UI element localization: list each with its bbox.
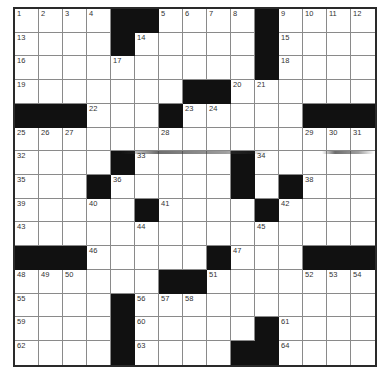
answer-cell[interactable] [327, 341, 351, 365]
answer-cell[interactable] [159, 175, 183, 199]
answer-cell[interactable]: 60 [135, 317, 159, 341]
answer-cell[interactable] [279, 222, 303, 246]
answer-cell[interactable] [159, 246, 183, 270]
answer-cell[interactable] [279, 128, 303, 152]
answer-cell[interactable] [303, 56, 327, 80]
answer-cell[interactable] [87, 33, 111, 57]
answer-cell[interactable] [207, 294, 231, 318]
answer-cell[interactable] [135, 175, 159, 199]
answer-cell[interactable] [159, 33, 183, 57]
answer-cell[interactable] [39, 341, 63, 365]
answer-cell[interactable] [207, 317, 231, 341]
answer-cell[interactable]: 16 [15, 56, 39, 80]
answer-cell[interactable] [111, 270, 135, 294]
answer-cell[interactable] [327, 151, 351, 175]
answer-cell[interactable]: 20 [231, 80, 255, 104]
answer-cell[interactable] [39, 33, 63, 57]
answer-cell[interactable]: 12 [351, 9, 375, 33]
answer-cell[interactable]: 13 [15, 33, 39, 57]
answer-cell[interactable]: 27 [63, 128, 87, 152]
answer-cell[interactable]: 25 [15, 128, 39, 152]
answer-cell[interactable]: 17 [111, 56, 135, 80]
answer-cell[interactable]: 52 [303, 270, 327, 294]
answer-cell[interactable] [327, 175, 351, 199]
answer-cell[interactable]: 34 [255, 151, 279, 175]
answer-cell[interactable] [231, 33, 255, 57]
answer-cell[interactable] [207, 128, 231, 152]
answer-cell[interactable] [279, 104, 303, 128]
answer-cell[interactable]: 3 [63, 9, 87, 33]
answer-cell[interactable] [87, 222, 111, 246]
answer-cell[interactable]: 39 [15, 199, 39, 223]
answer-cell[interactable] [39, 199, 63, 223]
answer-cell[interactable]: 32 [15, 151, 39, 175]
answer-cell[interactable]: 50 [63, 270, 87, 294]
answer-cell[interactable] [135, 246, 159, 270]
answer-cell[interactable] [63, 80, 87, 104]
answer-cell[interactable] [207, 341, 231, 365]
answer-cell[interactable] [231, 199, 255, 223]
answer-cell[interactable]: 49 [39, 270, 63, 294]
answer-cell[interactable] [135, 56, 159, 80]
answer-cell[interactable] [255, 128, 279, 152]
answer-cell[interactable] [135, 128, 159, 152]
answer-cell[interactable]: 18 [279, 56, 303, 80]
answer-cell[interactable] [351, 175, 375, 199]
answer-cell[interactable] [303, 80, 327, 104]
answer-cell[interactable] [159, 56, 183, 80]
answer-cell[interactable] [63, 33, 87, 57]
answer-cell[interactable] [207, 199, 231, 223]
answer-cell[interactable] [159, 80, 183, 104]
answer-cell[interactable] [255, 270, 279, 294]
answer-cell[interactable]: 29 [303, 128, 327, 152]
answer-cell[interactable] [207, 175, 231, 199]
answer-cell[interactable] [207, 222, 231, 246]
answer-cell[interactable] [351, 199, 375, 223]
answer-cell[interactable]: 10 [303, 9, 327, 33]
answer-cell[interactable]: 45 [255, 222, 279, 246]
answer-cell[interactable]: 62 [15, 341, 39, 365]
answer-cell[interactable] [183, 33, 207, 57]
answer-cell[interactable]: 14 [135, 33, 159, 57]
answer-cell[interactable] [351, 56, 375, 80]
answer-cell[interactable] [351, 341, 375, 365]
answer-cell[interactable] [39, 222, 63, 246]
answer-cell[interactable]: 7 [207, 9, 231, 33]
answer-cell[interactable] [39, 56, 63, 80]
answer-cell[interactable] [279, 151, 303, 175]
answer-cell[interactable] [303, 317, 327, 341]
answer-cell[interactable] [39, 80, 63, 104]
answer-cell[interactable] [87, 270, 111, 294]
answer-cell[interactable]: 53 [327, 270, 351, 294]
answer-cell[interactable] [87, 56, 111, 80]
answer-cell[interactable] [87, 80, 111, 104]
answer-cell[interactable] [63, 317, 87, 341]
answer-cell[interactable]: 41 [159, 199, 183, 223]
answer-cell[interactable] [111, 80, 135, 104]
answer-cell[interactable] [159, 151, 183, 175]
answer-cell[interactable]: 40 [87, 199, 111, 223]
answer-cell[interactable] [207, 56, 231, 80]
answer-cell[interactable] [63, 151, 87, 175]
answer-cell[interactable]: 56 [135, 294, 159, 318]
answer-cell[interactable]: 21 [255, 80, 279, 104]
answer-cell[interactable] [255, 246, 279, 270]
answer-cell[interactable] [183, 317, 207, 341]
answer-cell[interactable] [231, 104, 255, 128]
answer-cell[interactable] [327, 33, 351, 57]
answer-cell[interactable] [303, 199, 327, 223]
answer-cell[interactable] [39, 294, 63, 318]
answer-cell[interactable]: 59 [15, 317, 39, 341]
answer-cell[interactable] [183, 222, 207, 246]
answer-cell[interactable] [183, 246, 207, 270]
answer-cell[interactable] [279, 246, 303, 270]
answer-cell[interactable] [279, 270, 303, 294]
answer-cell[interactable] [183, 56, 207, 80]
answer-cell[interactable] [159, 341, 183, 365]
answer-cell[interactable] [351, 294, 375, 318]
answer-cell[interactable]: 15 [279, 33, 303, 57]
answer-cell[interactable]: 22 [87, 104, 111, 128]
answer-cell[interactable] [183, 341, 207, 365]
answer-cell[interactable] [351, 151, 375, 175]
answer-cell[interactable]: 4 [87, 9, 111, 33]
